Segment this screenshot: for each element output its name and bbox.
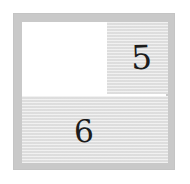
grid-cell-top-left[interactable] [22,22,105,94]
grid-cell-top-right[interactable]: 5 [107,22,168,94]
grid-board-inner: 5 6 [22,22,166,161]
grid-cell-top-right-label: 5 [130,40,152,74]
screenshot-canvas: 5 6 [0,0,190,184]
grid-cell-bottom[interactable]: 6 [22,96,168,163]
grid-cell-bottom-label: 6 [73,115,95,147]
grid-board-frame: 5 6 [13,13,175,170]
